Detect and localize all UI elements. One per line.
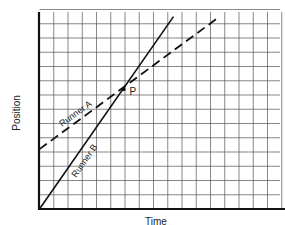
x-axis-label: Time: [145, 216, 167, 225]
point-p-label: P: [130, 86, 137, 97]
position-time-chart: P Runner A Runner B Time Position: [0, 0, 285, 225]
intersection-point: [122, 87, 126, 91]
y-axis-label: Position: [11, 95, 22, 131]
